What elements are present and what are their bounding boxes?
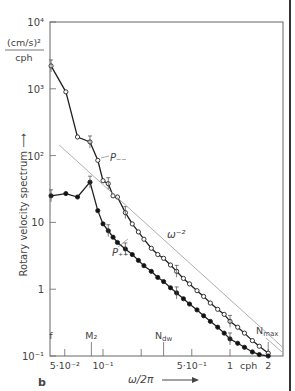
x-axis-ticks: 5·10⁻²10⁻¹5·10⁻¹12cph bbox=[50, 349, 271, 371]
y-tick-label: 10 bbox=[31, 217, 44, 228]
data-point bbox=[161, 256, 165, 260]
data-point bbox=[101, 179, 105, 183]
data-point bbox=[168, 263, 172, 267]
data-point bbox=[156, 275, 160, 279]
data-point bbox=[156, 252, 160, 256]
frequency-markers: fM₂NdwNmax bbox=[49, 325, 282, 356]
p-minus-minus-label: P₋₋ bbox=[110, 152, 127, 163]
data-point bbox=[236, 341, 240, 345]
data-point bbox=[187, 282, 191, 286]
x-tick-label: 5·10⁻² bbox=[50, 360, 80, 371]
data-point bbox=[149, 246, 153, 250]
data-point bbox=[208, 301, 212, 305]
data-point bbox=[75, 195, 79, 199]
data-series bbox=[49, 60, 283, 358]
y-tick-label: 10⁴ bbox=[27, 17, 44, 28]
marker-label: f bbox=[49, 330, 53, 341]
data-point bbox=[195, 308, 199, 312]
data-point bbox=[149, 269, 153, 273]
data-point bbox=[64, 191, 68, 195]
data-point bbox=[130, 222, 134, 226]
p-minus-minus-leader bbox=[101, 156, 109, 158]
data-point bbox=[257, 344, 261, 348]
data-point bbox=[216, 307, 220, 311]
data-point bbox=[266, 354, 270, 358]
data-point bbox=[236, 325, 240, 329]
y-tick-label: 10⁻¹ bbox=[22, 351, 44, 362]
data-point bbox=[111, 235, 115, 239]
data-point bbox=[101, 222, 105, 226]
data-point bbox=[216, 325, 220, 329]
x-axis-label: ω/2π bbox=[128, 373, 154, 385]
data-point bbox=[75, 135, 79, 139]
data-point bbox=[115, 195, 119, 199]
data-point bbox=[195, 289, 199, 293]
omega-minus2-label: ω⁻² bbox=[167, 228, 186, 240]
data-point bbox=[130, 252, 134, 256]
x-unit-label: cph bbox=[240, 360, 257, 371]
marker-label: Ndw bbox=[155, 330, 173, 343]
data-point bbox=[208, 319, 212, 323]
omega-minus2-reference-line bbox=[59, 145, 283, 347]
data-point bbox=[202, 294, 206, 298]
data-point bbox=[142, 264, 146, 268]
y-axis-label: Rotary velocity spectrum ⟶ bbox=[18, 134, 29, 277]
marker-label: M₂ bbox=[85, 330, 97, 341]
data-point bbox=[142, 237, 146, 241]
page-border-line bbox=[289, 0, 291, 391]
data-point bbox=[187, 302, 191, 306]
x-tick-label: 2 bbox=[265, 360, 271, 371]
data-point bbox=[161, 279, 165, 283]
y-unit-numerator: (cm/s)² bbox=[7, 37, 41, 48]
data-point bbox=[64, 90, 68, 94]
data-point bbox=[111, 194, 115, 198]
data-point bbox=[257, 352, 261, 356]
x-arrow-head bbox=[192, 377, 199, 383]
data-point bbox=[115, 240, 119, 244]
data-point bbox=[242, 345, 246, 349]
data-point bbox=[181, 297, 185, 301]
p-minus-minus-line bbox=[51, 66, 268, 353]
x-tick-label: 1 bbox=[227, 360, 233, 371]
data-point bbox=[250, 350, 254, 354]
data-point bbox=[242, 331, 246, 335]
x-tick-label: 5·10⁻¹ bbox=[177, 360, 207, 371]
data-point bbox=[250, 339, 254, 343]
data-point bbox=[202, 314, 206, 318]
x-tick-label: 10⁻¹ bbox=[93, 360, 114, 371]
data-point bbox=[136, 258, 140, 262]
y-unit-denominator: cph bbox=[15, 52, 32, 63]
panel-label: b bbox=[38, 376, 46, 389]
data-point bbox=[222, 331, 226, 335]
y-tick-label: 1 bbox=[38, 284, 44, 295]
data-point bbox=[136, 230, 140, 234]
data-point bbox=[168, 286, 172, 290]
data-point bbox=[96, 158, 100, 162]
spectrum-chart: 10⁻¹11010²10³10⁴ 5·10⁻²10⁻¹5·10⁻¹12cph f… bbox=[0, 0, 295, 391]
data-point bbox=[181, 276, 185, 280]
p-plus-plus-label: P₊₊ bbox=[112, 247, 129, 258]
y-tick-label: 10³ bbox=[27, 84, 44, 95]
marker-label: Nmax bbox=[256, 325, 278, 338]
data-point bbox=[96, 209, 100, 213]
y-tick-label: 10² bbox=[27, 151, 44, 162]
data-point bbox=[222, 312, 226, 316]
